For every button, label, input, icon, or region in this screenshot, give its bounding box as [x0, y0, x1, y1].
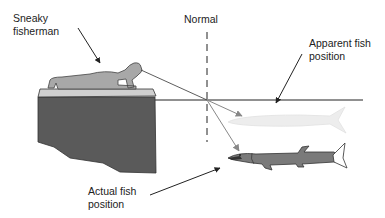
fisherman-figure — [48, 63, 142, 89]
actual-fish — [228, 143, 347, 170]
fisherman-arrow — [78, 28, 100, 63]
fisherman-label: Sneaky fisherman — [13, 12, 59, 37]
apparent-fish — [228, 107, 346, 133]
fisherman-label-line2: fisherman — [13, 25, 59, 38]
actual-fish-arrow — [150, 168, 220, 195]
actual-fish-label-line2: position — [88, 198, 136, 211]
apparent-fish-label-line2: position — [309, 50, 371, 63]
actual-fish-label: Actual fish position — [88, 185, 136, 210]
dock-body — [38, 97, 156, 173]
apparent-fish-label-line1: Apparent fish — [309, 37, 371, 50]
apparent-fish-label: Apparent fish position — [309, 37, 371, 62]
dock-top — [38, 89, 156, 97]
normal-label: Normal — [184, 13, 218, 26]
actual-fish-label-line1: Actual fish — [88, 185, 136, 198]
apparent-fish-arrow — [276, 54, 302, 103]
fisherman-label-line1: Sneaky — [13, 12, 59, 25]
